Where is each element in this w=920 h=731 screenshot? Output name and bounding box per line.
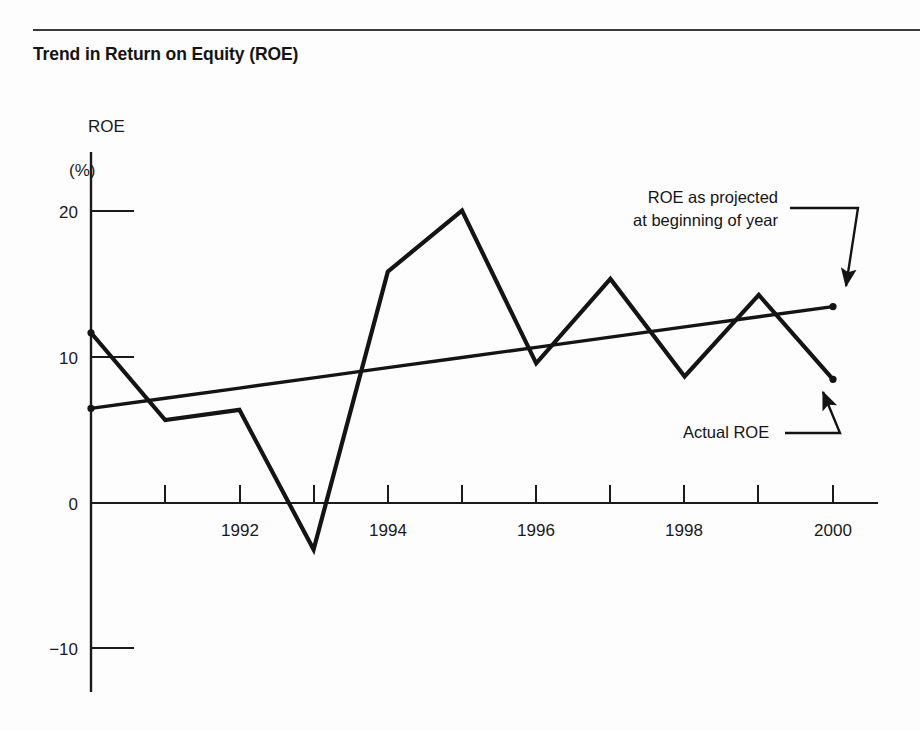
y-tick-label-0: 0: [69, 495, 78, 514]
annotation-projected-line2: at beginning of year: [633, 211, 778, 229]
x-tick-label-1998: 1998: [665, 521, 703, 540]
series-line-projected-roe: [91, 307, 833, 409]
chart-canvas: 20 10 0 −10 1992 1994 1996 1998 2000: [0, 0, 920, 731]
x-tick-label-2000: 2000: [814, 521, 852, 540]
annotation-projected-arrow: [790, 208, 858, 286]
chart-page: Trend in Return on Equity (ROE) ROE (%) …: [0, 0, 920, 731]
axes-group: [91, 152, 878, 692]
annotation-projected: ROE as projected at beginning of year: [633, 188, 858, 286]
x-tick-label-1992: 1992: [221, 521, 259, 540]
x-tick-marks: [165, 485, 833, 503]
y-tick-label-10: 10: [59, 349, 78, 368]
annotation-projected-line1: ROE as projected: [648, 188, 778, 206]
annotation-actual-label: Actual ROE: [683, 423, 769, 441]
series-point-marker: [829, 303, 836, 310]
series-point-marker: [87, 329, 94, 336]
annotation-actual-arrow: [785, 392, 840, 433]
y-tick-label-20: 20: [59, 203, 78, 222]
series-point-marker: [87, 405, 94, 412]
y-tick-label-neg10: −10: [49, 640, 78, 659]
x-tick-label-1996: 1996: [517, 521, 555, 540]
y-tick-marks: [91, 211, 134, 648]
y-tick-labels: 20 10 0 −10: [49, 203, 78, 659]
annotation-actual: Actual ROE: [683, 392, 840, 441]
x-tick-label-1994: 1994: [369, 521, 407, 540]
series-point-marker: [829, 376, 836, 383]
